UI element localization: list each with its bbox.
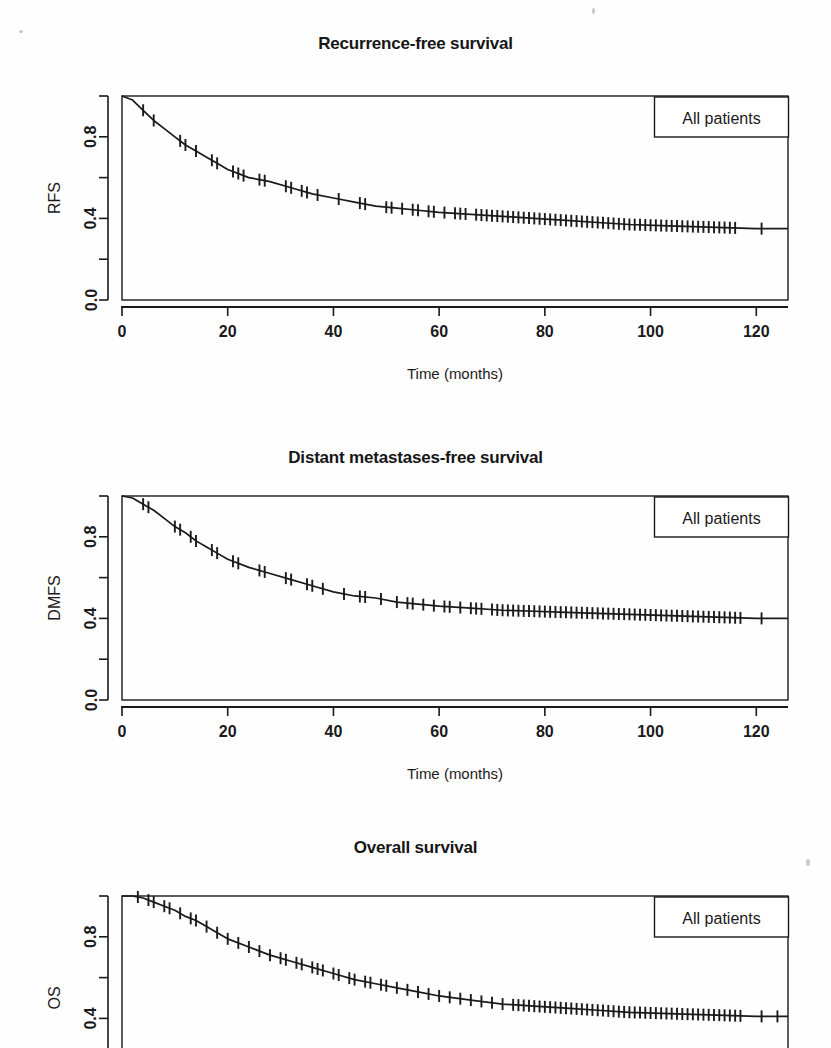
svg-text:0.8: 0.8	[83, 526, 100, 548]
svg-text:100: 100	[637, 323, 664, 340]
svg-text:100: 100	[637, 723, 664, 740]
svg-text:20: 20	[219, 723, 237, 740]
svg-text:40: 40	[325, 323, 343, 340]
panel-rfs: Recurrence-free survival 020406080100120…	[0, 0, 831, 400]
svg-text:All patients: All patients	[682, 910, 760, 927]
svg-text:120: 120	[743, 323, 770, 340]
svg-text:All patients: All patients	[682, 510, 760, 527]
svg-text:80: 80	[536, 723, 554, 740]
svg-text:RFS: RFS	[46, 182, 63, 214]
plot-dmfs: 020406080100120Time (months)0.00.40.8DMF…	[0, 400, 831, 800]
svg-text:0.4: 0.4	[83, 207, 100, 229]
svg-text:120: 120	[743, 723, 770, 740]
plot-os: 020406080100120Time (months)0.00.40.8OSA…	[0, 800, 831, 1048]
svg-text:60: 60	[430, 723, 448, 740]
svg-text:OS: OS	[46, 986, 63, 1009]
svg-text:Time (months): Time (months)	[407, 365, 503, 382]
svg-text:0.4: 0.4	[83, 607, 100, 629]
svg-text:0: 0	[118, 323, 127, 340]
panel-os: Overall survival 020406080100120Time (mo…	[0, 800, 831, 1048]
svg-text:Time (months): Time (months)	[407, 765, 503, 782]
svg-text:0.4: 0.4	[83, 1007, 100, 1029]
svg-text:0.0: 0.0	[83, 289, 100, 311]
svg-text:0.8: 0.8	[83, 926, 100, 948]
svg-text:0.8: 0.8	[83, 126, 100, 148]
svg-text:80: 80	[536, 323, 554, 340]
svg-text:60: 60	[430, 323, 448, 340]
svg-text:40: 40	[325, 723, 343, 740]
panel-dmfs: Distant metastases-free survival 0204060…	[0, 400, 831, 800]
svg-text:0.0: 0.0	[83, 689, 100, 711]
svg-text:20: 20	[219, 323, 237, 340]
svg-text:0: 0	[118, 723, 127, 740]
plot-rfs: 020406080100120Time (months)0.00.40.8RFS…	[0, 0, 831, 400]
svg-text:All patients: All patients	[682, 110, 760, 127]
figure-page: Recurrence-free survival 020406080100120…	[0, 0, 831, 1048]
svg-text:DMFS: DMFS	[46, 575, 63, 620]
